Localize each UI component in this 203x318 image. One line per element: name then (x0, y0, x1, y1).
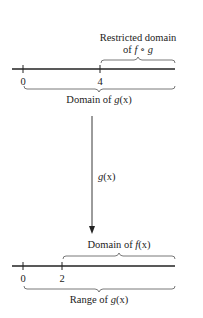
arrow-label-suffix: (x) (103, 171, 115, 182)
domain-f-label: Domain of f(x) (88, 239, 151, 251)
tick-label-0-bottom: 0 (20, 273, 25, 285)
range-g-label: Range of g(x) (70, 294, 128, 306)
restricted-domain-brace (101, 57, 175, 63)
restricted-domain-label-line2: of f ∘ g (123, 44, 153, 56)
mapping-arrow-label: g(x) (98, 171, 116, 183)
domain-g-label: Domain of g(x) (66, 94, 131, 106)
arrow-head-icon (89, 226, 95, 234)
tick-label-0-top: 0 (20, 76, 25, 88)
domain-g-suffix: (x) (119, 94, 131, 105)
range-g-suffix: (x) (116, 294, 128, 305)
range-g-prefix: Range of (70, 294, 111, 305)
restricted-domain-label-line1: Restricted domain (100, 32, 177, 44)
domain-f-brace (63, 253, 175, 259)
domain-f-suffix: (x) (138, 239, 150, 250)
range-g-brace (24, 286, 175, 292)
composition-f-g: f ∘ g (134, 44, 153, 55)
tick-label-2-bottom: 2 (59, 273, 64, 285)
tick-label-4-top: 4 (97, 76, 102, 88)
restricted-domain-of: of (123, 44, 134, 55)
domain-g-prefix: Domain of (66, 94, 114, 105)
diagram-canvas (0, 0, 203, 318)
domain-f-prefix: Domain of (88, 239, 136, 250)
